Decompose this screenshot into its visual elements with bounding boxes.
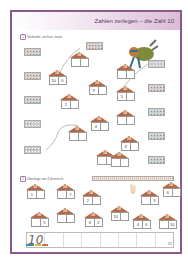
task-instruction: Überlege am Zahnstrich. <box>27 177 64 181</box>
house-left-field[interactable]: 6 <box>164 189 173 196</box>
house-right-field[interactable] <box>127 93 135 100</box>
number-house: 10 <box>56 208 74 222</box>
house-left-field[interactable]: 9 <box>90 87 99 94</box>
worksheet-page: Zahlen zerlegen – die Zahl 10 1 Verbinde… <box>10 10 182 254</box>
house-right-field[interactable] <box>127 117 135 124</box>
page-number: 11 <box>168 241 172 246</box>
house-right-field[interactable] <box>173 189 181 196</box>
number-house: 10 2 <box>82 190 100 204</box>
house-left-field[interactable] <box>58 215 67 222</box>
house-right-field[interactable]: 0 <box>59 77 67 84</box>
number-house: 10 10 <box>158 214 176 228</box>
house-right-field[interactable]: 3 <box>151 197 159 204</box>
house-right-field[interactable]: 10 <box>169 221 177 228</box>
house-left-field[interactable] <box>58 191 67 198</box>
number-house: 10 <box>116 64 134 78</box>
house-right-field[interactable] <box>101 123 109 130</box>
house-right-field[interactable]: 6 <box>143 221 151 228</box>
house-left-field[interactable]: 1 <box>28 191 37 198</box>
house-right-field[interactable] <box>71 101 79 108</box>
house-left-field[interactable]: 2 <box>62 101 71 108</box>
house-left-field[interactable] <box>98 157 107 164</box>
task-2-label: 2 Überlege am Zahnstrich. <box>20 176 64 182</box>
house-left-field[interactable] <box>70 133 79 140</box>
number-house: 10 9 <box>88 80 106 94</box>
number-house: 10 3 <box>140 190 158 204</box>
number-house: 10 2 <box>60 94 78 108</box>
house-right-field[interactable] <box>93 197 101 204</box>
house-left-field[interactable]: 8 <box>86 219 95 226</box>
house-right-field[interactable] <box>37 191 45 198</box>
house-left-field[interactable] <box>32 219 41 226</box>
number-house: 10 <box>68 126 86 140</box>
house-right-field[interactable] <box>121 213 129 220</box>
number-house: 10 5 <box>116 86 134 100</box>
house-left-field[interactable]: 6 <box>122 143 131 150</box>
number-house: 10 6 <box>162 182 180 196</box>
house-left-field[interactable]: 2 <box>84 197 93 204</box>
house-right-field[interactable] <box>67 215 75 222</box>
house-right-field[interactable] <box>99 87 107 94</box>
house-right-field[interactable] <box>121 159 129 166</box>
house-left-field[interactable] <box>160 221 169 228</box>
number-house: 10 10 <box>110 206 128 220</box>
number-house: 10 <box>116 110 134 124</box>
house-right-field[interactable] <box>81 59 89 66</box>
house-left-field[interactable]: 10 <box>112 213 121 220</box>
number-house: 10 6 <box>120 136 138 150</box>
number-house: 10 4 <box>90 116 108 130</box>
number-house: 10 82 <box>84 212 102 226</box>
number-house: 10 100 <box>48 70 66 84</box>
number-house: 10 46 <box>132 214 150 228</box>
house-right-field[interactable]: 2 <box>95 219 103 226</box>
house-left-field[interactable] <box>118 117 127 124</box>
writing-practice-line[interactable]: 10 <box>26 232 174 248</box>
task-number: 2 <box>20 176 26 182</box>
house-left-field[interactable] <box>112 159 121 166</box>
number-house: 10 1 <box>26 184 44 198</box>
house-left-field[interactable]: 4 <box>134 221 143 228</box>
house-right-field[interactable] <box>127 71 135 78</box>
publisher-logo <box>26 244 48 246</box>
house-right-field[interactable]: 5 <box>41 219 49 226</box>
number-house: 10 <box>110 152 128 166</box>
number-house: 10 7 <box>56 184 74 198</box>
house-left-field[interactable]: 4 <box>92 123 101 130</box>
house-left-field[interactable]: 5 <box>118 93 127 100</box>
house-right-field[interactable]: 7 <box>67 191 75 198</box>
number-house: 10 5 <box>30 212 48 226</box>
house-left-field[interactable]: 10 <box>50 77 59 84</box>
house-right-field[interactable] <box>131 143 139 150</box>
house-right-field[interactable] <box>79 133 87 140</box>
house-left-field[interactable] <box>118 71 127 78</box>
hand-pointer-icon <box>130 180 136 190</box>
house-left-field[interactable] <box>72 59 81 66</box>
house-left-field[interactable] <box>142 197 151 204</box>
number-house: 10 <box>70 52 88 66</box>
